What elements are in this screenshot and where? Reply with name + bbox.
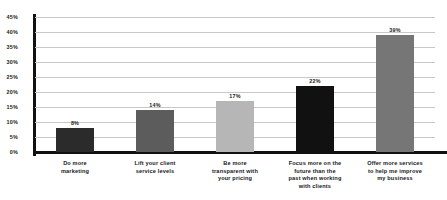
category-label-line: with clients: [275, 183, 355, 191]
category-label-line: Focus more on the: [275, 160, 355, 168]
category-label-line: Be more: [195, 160, 275, 168]
bar-value-label: 8%: [56, 120, 94, 126]
x-axis-category-labels: Do moremarketingLift your clientservice …: [35, 160, 435, 200]
bar[interactable]: [296, 86, 334, 152]
category-label-line: to help me improve: [355, 168, 435, 176]
category-label: Focus more on thefuture than thepast whe…: [275, 160, 355, 190]
y-axis-tick-label: 25%: [0, 74, 18, 80]
category-label-line: future than the: [275, 168, 355, 176]
category-label-line: service levels: [115, 168, 195, 176]
bar[interactable]: [376, 35, 414, 152]
y-axis-tick-label: 35%: [0, 44, 18, 50]
category-label: Do moremarketing: [35, 160, 115, 175]
y-axis-tick-label: 45%: [0, 14, 18, 20]
bar-chart: 45%40%35%30%25%20%15%10%5%0% 8%14%17%22%…: [0, 0, 447, 200]
y-axis-tick-label: 5%: [0, 134, 18, 140]
bar-value-label: 22%: [296, 78, 334, 84]
y-axis-tick-label: 15%: [0, 104, 18, 110]
bar-slot: 39%: [376, 17, 414, 152]
bar[interactable]: [216, 101, 254, 152]
category-label-line: Offer more services: [355, 160, 435, 168]
category-label-line: transparent with: [195, 168, 275, 176]
bar-value-label: 39%: [376, 27, 414, 33]
bar-slot: 14%: [136, 17, 174, 152]
bar-slot: 8%: [56, 17, 94, 152]
bar[interactable]: [136, 110, 174, 152]
y-axis-tick-label: 0%: [0, 149, 18, 155]
category-label-line: Do more: [35, 160, 115, 168]
bar-slot: 17%: [216, 17, 254, 152]
category-label-line: past when working: [275, 175, 355, 183]
y-axis-tick-label: 30%: [0, 59, 18, 65]
bar-slot: 22%: [296, 17, 334, 152]
category-label: Lift your clientservice levels: [115, 160, 195, 175]
plot-area: 45%40%35%30%25%20%15%10%5%0% 8%14%17%22%…: [35, 17, 435, 152]
y-axis-tick-label: 20%: [0, 89, 18, 95]
category-label-line: Lift your client: [115, 160, 195, 168]
bar-value-label: 17%: [216, 93, 254, 99]
y-axis-tick-label: 10%: [0, 119, 18, 125]
bar[interactable]: [56, 128, 94, 152]
category-label: Be moretransparent withyour pricing: [195, 160, 275, 183]
bar-value-label: 14%: [136, 102, 174, 108]
category-label-line: marketing: [35, 168, 115, 176]
category-label-line: my business: [355, 175, 435, 183]
bars-group: 8%14%17%22%39%: [35, 17, 435, 152]
y-axis-tick-label: 40%: [0, 29, 18, 35]
category-label: Offer more servicesto help me improvemy …: [355, 160, 435, 183]
category-label-line: your pricing: [195, 175, 275, 183]
